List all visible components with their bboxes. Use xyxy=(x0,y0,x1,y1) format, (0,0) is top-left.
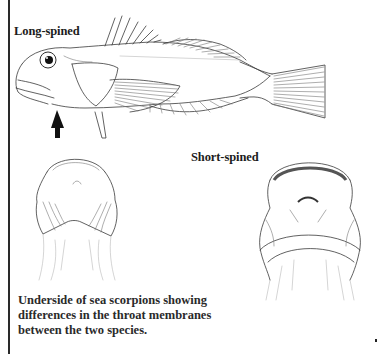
caption-line-2: differences in the throat membranes xyxy=(18,308,258,323)
underside-long-spined-illustration xyxy=(15,150,135,290)
scan-mark xyxy=(375,339,377,342)
underside-short-spined-illustration xyxy=(238,150,378,310)
arrow-icon xyxy=(51,110,64,138)
caption-line-3: between the two species. xyxy=(18,323,258,338)
side-view-fish-illustration xyxy=(0,0,380,160)
caption-line-1: Underside of sea scorpions showing xyxy=(18,293,258,308)
figure-caption: Underside of sea scorpions showing diffe… xyxy=(18,293,258,338)
